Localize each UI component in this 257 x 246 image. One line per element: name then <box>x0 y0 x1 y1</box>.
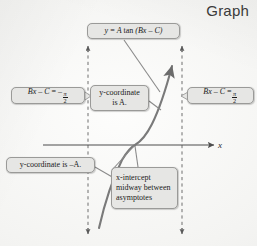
left-asymptote-callout: Bx – C = –π2 <box>11 87 85 104</box>
y-coordinate-a-text: y-coordinate is A. <box>99 88 139 108</box>
equation-text: y = A tan (Bx – C) <box>105 26 163 36</box>
page-title: Graph <box>206 2 249 19</box>
left-asymptote-text: Bx – C = –π2 <box>28 87 68 105</box>
pi-over-two-fraction: π2 <box>232 91 237 104</box>
y-coordinate-negative-a-text: y-coordinate is –A. <box>20 160 82 170</box>
right-asymptote-text: Bx – C =π2 <box>203 87 237 105</box>
x-intercept-callout: x-intercept midway between asymptotes <box>111 167 178 209</box>
y-coordinate-negative-a-callout: y-coordinate is –A. <box>6 157 95 173</box>
x-axis-label: x <box>217 140 222 150</box>
equation-callout: y = A tan (Bx – C) <box>87 23 180 39</box>
pi-over-two-fraction: π2 <box>63 91 68 104</box>
x-intercept-text: x-intercept midway between asymptotes <box>116 173 170 204</box>
right-asymptote-callout: Bx – C =π2 <box>187 87 254 104</box>
y-coordinate-a-callout: y-coordinate is A. <box>90 85 149 111</box>
figure-page: x Graph y = A tan (Bx – C) Bx – C = –π2 … <box>0 0 257 246</box>
